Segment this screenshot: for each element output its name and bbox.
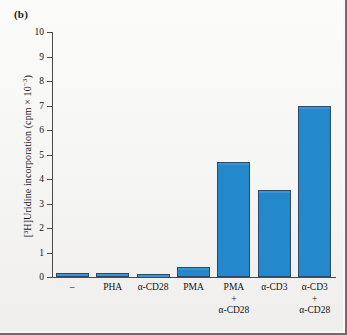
x-axis-label: α-CD28 xyxy=(133,282,173,294)
y-tick-label: 2 xyxy=(39,223,44,233)
x-axis-label-line: α-CD28 xyxy=(214,305,254,317)
y-tick-label: 9 xyxy=(39,52,44,62)
x-axis-label-line: + xyxy=(214,294,254,306)
y-axis-title-main: [³H]Uridine incorporation (cpm × 10 xyxy=(22,86,33,237)
y-tick-label: 6 xyxy=(39,125,44,135)
bar-highlight xyxy=(218,163,249,165)
y-tick-mark xyxy=(47,253,52,254)
y-tick-mark xyxy=(47,179,52,180)
figure-background: (b) [³H]Uridine incorporation (cpm × 10−… xyxy=(0,0,343,331)
x-axis-label-line: PMA xyxy=(173,282,213,294)
x-axis-label-line: α-CD3 xyxy=(295,282,335,294)
y-tick-label: 4 xyxy=(39,174,44,184)
x-axis-label-line: PHA xyxy=(92,282,132,294)
y-tick-mark xyxy=(47,57,52,58)
y-tick-label: 0 xyxy=(39,272,44,282)
x-axis-line xyxy=(52,277,336,278)
bar-highlight xyxy=(97,274,128,276)
y-tick-mark xyxy=(47,130,52,131)
y-tick-mark xyxy=(47,204,52,205)
y-tick-label: 1 xyxy=(39,248,44,258)
bar xyxy=(137,274,170,277)
bar-highlight xyxy=(299,107,330,109)
bar xyxy=(258,190,291,277)
x-axis-label: α-CD3 xyxy=(254,282,294,294)
y-tick-mark xyxy=(47,228,52,229)
x-axis-label-line: – xyxy=(52,282,92,294)
y-tick-mark xyxy=(47,106,52,107)
y-tick-mark xyxy=(47,81,52,82)
y-axis-title-tail: ) xyxy=(22,75,33,78)
x-axis-label-line: PMA xyxy=(214,282,254,294)
bar xyxy=(96,273,129,277)
x-axis-label: PMA+α-CD28 xyxy=(214,282,254,317)
bar-highlight xyxy=(138,275,169,277)
y-axis-title: [³H]Uridine incorporation (cpm × 10−3) xyxy=(21,41,33,271)
x-axis-label-line: α-CD28 xyxy=(133,282,173,294)
y-tick-label: 7 xyxy=(39,101,44,111)
bar-highlight xyxy=(57,274,88,276)
panel-letter: (b) xyxy=(14,8,28,20)
x-axis-label-line: α-CD3 xyxy=(254,282,294,294)
bar-highlight xyxy=(178,268,209,270)
bar xyxy=(56,273,89,277)
x-axis-label-line: α-CD28 xyxy=(295,305,335,317)
x-axis-label: PMA xyxy=(173,282,213,294)
y-axis-title-exponent: −3 xyxy=(21,79,29,87)
y-tick-label: 5 xyxy=(39,150,44,160)
x-axis-label: α-CD3+α-CD28 xyxy=(295,282,335,317)
y-tick-mark xyxy=(47,32,52,33)
bar xyxy=(177,267,210,277)
x-axis-label: – xyxy=(52,282,92,294)
y-tick-mark xyxy=(47,155,52,156)
y-tick-label: 3 xyxy=(39,199,44,209)
y-axis-line xyxy=(52,32,53,278)
y-tick-label: 8 xyxy=(39,76,44,86)
plot-area: 012345678910 –PHAα-CD28PMAPMA+α-CD28α-CD… xyxy=(52,32,335,277)
figure-panel: (b) [³H]Uridine incorporation (cpm × 10−… xyxy=(0,0,347,335)
bar xyxy=(298,106,331,278)
bar-highlight xyxy=(259,191,290,193)
x-axis-label-line: + xyxy=(295,294,335,306)
y-tick-mark xyxy=(47,277,52,278)
y-tick-label: 10 xyxy=(35,27,45,37)
x-axis-label: PHA xyxy=(92,282,132,294)
bar xyxy=(217,162,250,277)
